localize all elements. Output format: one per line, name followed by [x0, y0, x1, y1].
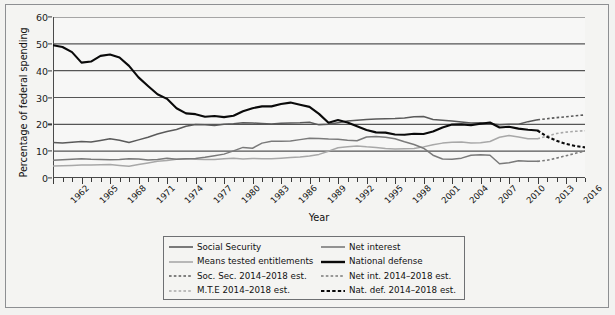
x-tick-label: 2004	[467, 183, 490, 206]
chart-legend: Social SecurityNet interestMeans tested …	[163, 236, 465, 300]
x-axis-tick-labels: 1962196519681971197419771980198319861989…	[53, 183, 585, 211]
x-tick-mark	[148, 178, 149, 182]
legend-item: M.T.E 2014–2018 est.	[169, 286, 321, 296]
x-tick-label: 1995	[382, 183, 405, 206]
legend-label: Means tested entitlements	[197, 257, 313, 266]
legend-item: Soc. Sec. 2014–2018 est.	[169, 271, 321, 281]
x-tick-mark	[500, 178, 501, 182]
x-tick-label: 1971	[154, 183, 177, 206]
x-tick-mark	[300, 178, 301, 182]
x-tick-mark	[405, 178, 406, 182]
x-tick-label: 1965	[97, 183, 120, 206]
x-tick-mark	[319, 178, 320, 182]
legend-grid: Social SecurityNet interestMeans tested …	[169, 240, 459, 298]
x-tick-mark	[547, 178, 548, 182]
x-tick-mark	[557, 178, 558, 182]
x-tick-label: 1983	[268, 183, 291, 206]
x-tick-mark	[462, 178, 463, 182]
y-tick-mark	[48, 16, 52, 17]
legend-swatch-icon	[321, 271, 345, 281]
legend-label: Nat. def. 2014–2018 est.	[349, 286, 456, 295]
x-tick-label: 1977	[211, 183, 234, 206]
legend-swatch-icon	[169, 271, 193, 281]
chart-lines	[53, 17, 585, 178]
x-tick-mark	[243, 178, 244, 182]
series-line-estimate	[538, 151, 586, 161]
x-tick-label: 1989	[325, 183, 348, 206]
y-tick-label: 40	[36, 65, 48, 76]
x-tick-mark	[528, 178, 529, 182]
x-tick-mark	[471, 178, 472, 182]
x-tick-mark	[177, 178, 178, 182]
legend-label: Soc. Sec. 2014–2018 est.	[197, 272, 307, 281]
x-tick-label: 1980	[239, 183, 262, 206]
x-tick-mark	[576, 178, 577, 182]
x-tick-mark	[348, 178, 349, 182]
x-tick-mark	[262, 178, 263, 182]
series-line	[53, 45, 538, 135]
x-tick-mark	[386, 178, 387, 182]
legend-label: M.T.E 2014–2018 est.	[197, 286, 290, 295]
y-tick-mark	[48, 97, 52, 98]
x-tick-mark	[215, 178, 216, 182]
x-tick-mark	[186, 178, 187, 182]
y-tick-label: 50	[36, 38, 48, 49]
legend-item: Net int. 2014–2018 est.	[321, 271, 469, 281]
x-tick-label: 2007	[496, 183, 519, 206]
x-tick-mark	[205, 178, 206, 182]
series-line	[53, 117, 538, 144]
y-tick-label: 60	[36, 12, 48, 23]
legend-swatch-icon	[169, 257, 193, 267]
x-tick-mark	[376, 178, 377, 182]
y-tick-mark	[48, 151, 52, 152]
legend-label: Social Security	[197, 243, 261, 252]
x-tick-mark	[357, 178, 358, 182]
y-tick-label: 30	[36, 92, 48, 103]
series-line	[53, 136, 538, 163]
x-tick-mark	[158, 178, 159, 182]
x-tick-mark	[519, 178, 520, 182]
legend-swatch-icon	[321, 286, 345, 296]
x-tick-mark	[91, 178, 92, 182]
x-tick-mark	[443, 178, 444, 182]
x-tick-label: 1998	[410, 183, 433, 206]
x-tick-mark	[120, 178, 121, 182]
legend-item: Net interest	[321, 242, 469, 252]
x-tick-label: 2013	[553, 183, 576, 206]
y-tick-mark	[48, 70, 52, 71]
y-axis-ticks: 0102030405060	[22, 17, 48, 178]
x-axis-title: Year	[53, 212, 585, 223]
legend-swatch-icon	[169, 286, 193, 296]
x-tick-mark	[291, 178, 292, 182]
y-tick-mark	[48, 124, 52, 125]
x-tick-mark	[129, 178, 130, 182]
x-tick-mark	[414, 178, 415, 182]
x-tick-mark	[72, 178, 73, 182]
series-line-estimate	[538, 115, 586, 120]
legend-item: Nat. def. 2014–2018 est.	[321, 286, 469, 296]
x-tick-mark	[585, 178, 586, 182]
x-tick-mark	[490, 178, 491, 182]
x-tick-label: 2001	[439, 183, 462, 206]
x-tick-mark	[63, 178, 64, 182]
legend-item: National defense	[321, 257, 469, 267]
x-tick-label: 1986	[296, 183, 319, 206]
legend-swatch-icon	[169, 242, 193, 252]
y-tick-label: 10	[36, 146, 48, 157]
legend-swatch-icon	[321, 242, 345, 252]
plot-area	[53, 17, 585, 178]
legend-label: Net interest	[349, 243, 400, 252]
x-tick-label: 1974	[182, 183, 205, 206]
x-tick-mark	[272, 178, 273, 182]
legend-item: Social Security	[169, 242, 321, 252]
figure: Percentage of federal spending 010203040…	[0, 0, 615, 315]
x-tick-mark	[234, 178, 235, 182]
x-tick-label: 2010	[524, 183, 547, 206]
x-tick-mark	[101, 178, 102, 182]
y-tick-mark	[48, 177, 52, 178]
x-tick-mark	[329, 178, 330, 182]
legend-label: Net int. 2014–2018 est.	[349, 272, 451, 281]
y-tick-label: 20	[36, 119, 48, 130]
legend-label: National defense	[349, 257, 423, 266]
x-tick-label: 1968	[125, 183, 148, 206]
